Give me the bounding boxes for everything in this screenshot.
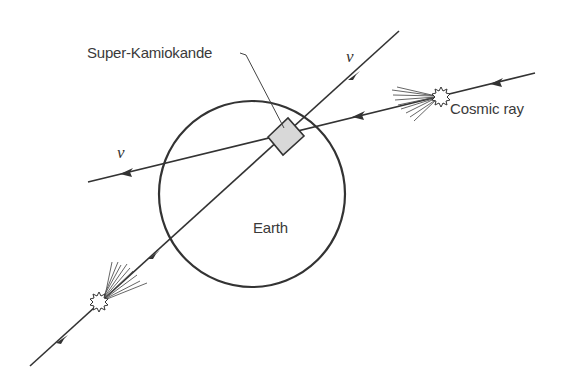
burst-icon [432, 87, 450, 107]
earth-circle [159, 101, 345, 287]
arrow-icon [120, 168, 133, 177]
detector-leader-line [240, 53, 284, 128]
downgoing-neutrino-path [88, 73, 535, 182]
super-kamiokande-detector [268, 118, 304, 155]
detector-label: Super-Kamiokande [87, 45, 212, 60]
upgoing-neutrino-path [30, 31, 399, 366]
cosmic-ray-shower-upper [392, 87, 437, 121]
arrow-icon [490, 78, 503, 87]
neutrino-diagram: Super-Kamiokande Cosmic ray Earth ν ν [0, 0, 570, 389]
earth-label: Earth [253, 220, 288, 235]
cosmic-ray-label: Cosmic ray [450, 101, 524, 116]
neutrino-label-left: ν [117, 144, 125, 161]
neutrino-label-upper: ν [346, 48, 354, 65]
